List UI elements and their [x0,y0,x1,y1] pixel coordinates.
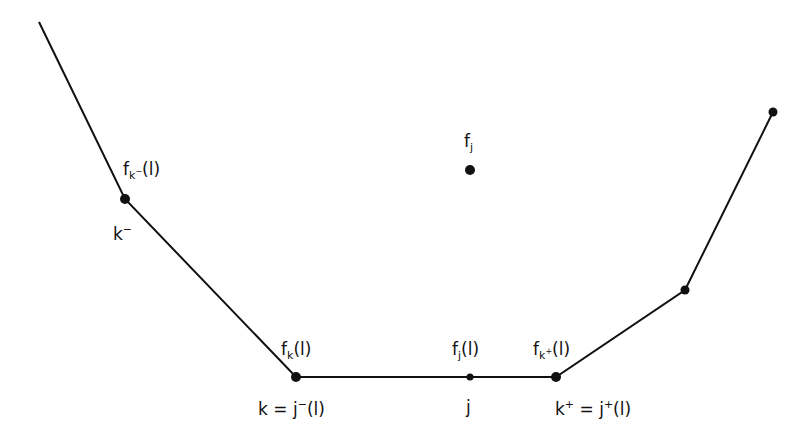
label-eq: = [574,399,599,419]
piecewise-linear-curve [39,22,773,377]
label-f-k-minus-l: fk−(l) [123,161,160,181]
diagram-svg [0,0,807,438]
label-j: j [466,399,471,416]
node-right-1 [681,286,690,295]
label-base: j [466,397,471,417]
label-arg: (l) [552,339,570,359]
point-f-j [465,165,475,175]
label-lhs-sup: + [565,398,574,411]
label-base: k [113,224,123,244]
label-f-k-plus-l: fk+(l) [533,341,570,361]
label-arg: (l) [293,339,311,359]
label-sub: j [470,141,473,154]
node-k-minus [120,194,130,204]
label-eq: = [268,399,293,419]
label-arg: (l) [142,159,160,179]
diagram-canvas: fk−(l) k− fj fk(l) k = j−(l) fj(l) j fk+… [0,0,807,438]
label-lhs: k [555,399,565,419]
label-sup: − [298,398,307,411]
label-f-k-l: fk(l) [281,341,311,361]
label-sup: − [123,223,132,236]
node-k [291,372,301,382]
label-k-eq-j-minus-l: k = j−(l) [258,399,325,418]
label-sup: + [604,398,613,411]
label-f-j-l: fj(l) [452,341,479,361]
node-k-plus [551,372,561,382]
label-f-j: fj [464,133,473,153]
label-k-minus: k− [113,224,132,243]
label-arg: (l) [307,399,325,419]
label-k-plus-eq-j-plus-l: k+ = j+(l) [555,399,631,418]
label-lhs: k [258,399,268,419]
label-arg: (l) [461,339,479,359]
label-arg: (l) [613,399,631,419]
node-j [467,374,474,381]
node-right-2 [769,108,778,117]
